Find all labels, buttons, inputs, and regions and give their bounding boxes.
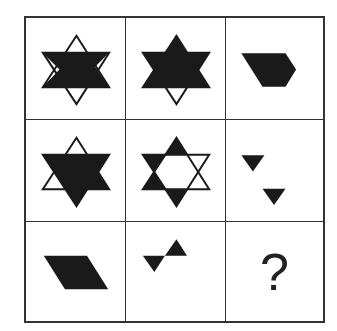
cell-r2c2 (126, 120, 226, 222)
cell-r1c1 (26, 18, 126, 120)
puzzle-grid: ? (24, 16, 325, 323)
cell-r3c3: ? (226, 222, 323, 321)
cell-r3c2 (126, 222, 226, 321)
hexagram-mostly-filled-icon (26, 120, 125, 221)
hexagram-tips-filled-icon (126, 120, 225, 221)
cell-r2c3 (226, 120, 323, 222)
cell-r1c3 (226, 18, 323, 120)
cell-r2c1 (26, 120, 126, 222)
question-mark: ? (226, 222, 323, 321)
hexagram-up-filled-icon (126, 18, 225, 119)
hexagram-left-filled-icon (26, 18, 125, 119)
filled-parallelogram-icon (26, 222, 125, 321)
cell-r1c2 (126, 18, 226, 120)
cell-r3c1 (26, 222, 126, 321)
bowtie-triangles-icon (126, 222, 225, 321)
two-down-triangles-icon (226, 120, 323, 221)
filled-pentagon-icon (226, 18, 323, 119)
